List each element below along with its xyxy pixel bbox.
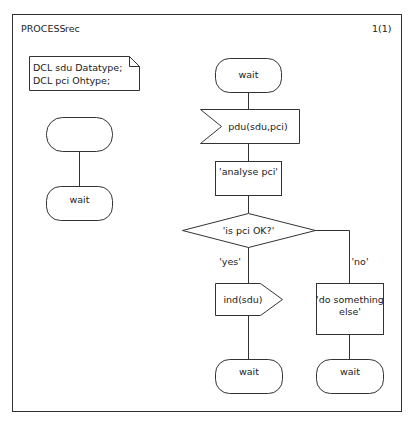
branch-no-label: 'no' [351, 256, 368, 267]
process-keyword: PROCESS [21, 23, 66, 34]
declaration-line-1: DCL sdu Datatype; [33, 62, 122, 73]
sdl-process-diagram: PROCESS rec 1(1) DCL sdu Datatype; DCL p… [0, 0, 411, 426]
page-number: 1(1) [372, 23, 392, 34]
branch-yes-label: 'yes' [219, 256, 241, 267]
decision-label: 'is pci OK?' [223, 225, 275, 236]
state-wait-no-label: wait [340, 366, 360, 377]
task-else-line-1: 'do something [316, 294, 384, 305]
state-wait-left-label: wait [70, 194, 90, 205]
process-name: rec [65, 23, 80, 34]
task-else-line-2: else' [339, 306, 361, 317]
output-signal-label: ind(sdu) [223, 294, 262, 305]
state-wait-top-label: wait [239, 69, 259, 80]
task-analyse-label: 'analyse pci' [219, 166, 278, 177]
declaration-line-2: DCL pci Ohtype; [33, 75, 110, 86]
state-wait-yes-label: wait [239, 366, 259, 377]
start-symbol[interactable] [47, 118, 113, 152]
input-signal-label: pdu(sdu,pci) [228, 121, 287, 132]
